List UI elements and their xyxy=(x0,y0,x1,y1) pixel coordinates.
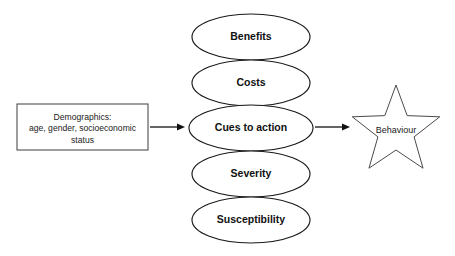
behaviour-label: Behaviour xyxy=(376,125,417,135)
behaviour-node[interactable]: Behaviour xyxy=(352,85,440,168)
ellipse-node-cues-to-action[interactable]: Cues to action xyxy=(189,105,313,151)
ellipse-node-severity[interactable]: Severity xyxy=(192,151,310,197)
severity-label: Severity xyxy=(231,167,272,179)
demographics-label-line-1: Demographics: xyxy=(54,112,112,122)
arrow-demographics-to-cues xyxy=(150,123,185,130)
ellipse-node-costs[interactable]: Costs xyxy=(192,60,310,106)
demographics-node[interactable]: Demographics: age, gender, socioeconomic… xyxy=(17,104,148,150)
ellipse-node-susceptibility[interactable]: Susceptibility xyxy=(192,197,310,243)
demographics-label-line-2: age, gender, socioeconomic xyxy=(29,123,137,133)
arrow-head xyxy=(177,123,185,130)
benefits-label: Benefits xyxy=(230,30,272,42)
diagram-canvas: Demographics: age, gender, socioeconomic… xyxy=(0,0,455,256)
demographics-label-line-3: status xyxy=(71,135,94,145)
health-belief-model-diagram: Demographics: age, gender, socioeconomic… xyxy=(0,0,455,256)
arrow-head xyxy=(342,123,350,130)
costs-label: Costs xyxy=(236,76,265,88)
cues-to-action-label: Cues to action xyxy=(215,121,287,133)
arrow-cues-to-behaviour xyxy=(315,123,350,130)
susceptibility-label: Susceptibility xyxy=(217,213,285,225)
ellipse-node-benefits[interactable]: Benefits xyxy=(192,14,310,60)
